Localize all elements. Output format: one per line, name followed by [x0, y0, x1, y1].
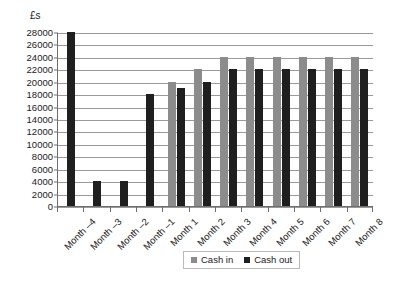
- x-tick-mark: [320, 207, 321, 212]
- x-label-cell: Month –3: [83, 214, 109, 262]
- bar-chart: £s 2800026000240002200020000180001600014…: [0, 0, 399, 292]
- bar-series-layer: [58, 33, 373, 206]
- bar-cash-out: [146, 94, 154, 206]
- x-axis-category-label: Month 8: [353, 216, 385, 248]
- y-tick-label: 12000: [27, 127, 53, 137]
- legend-swatch-icon: [244, 257, 250, 263]
- legend-item[interactable]: Cash in: [191, 254, 233, 266]
- x-tick-mark: [372, 207, 373, 212]
- x-tick-mark: [268, 207, 269, 212]
- x-tick-mark: [136, 207, 137, 212]
- x-tick-mark: [189, 207, 190, 212]
- bar-group: [268, 33, 294, 206]
- bar-group: [189, 33, 215, 206]
- bar-cash-out: [203, 82, 211, 206]
- y-tick-label: 10000: [27, 140, 53, 150]
- y-tick-label: 18000: [27, 90, 53, 100]
- bar-cash-in: [246, 57, 254, 206]
- bar-cash-out: [229, 69, 237, 206]
- y-tick-label: 2000: [32, 190, 53, 200]
- y-tick-label: 28000: [27, 28, 53, 38]
- x-tick-mark: [241, 207, 242, 212]
- bar-cash-out: [360, 69, 368, 206]
- bar-group: [294, 33, 320, 206]
- bar-cash-in: [220, 57, 228, 206]
- bar-group: [84, 33, 110, 206]
- bar-cash-in: [168, 82, 176, 206]
- x-tick-mark: [294, 207, 295, 212]
- x-tick-mark: [57, 207, 58, 212]
- x-tick-mark: [83, 207, 84, 212]
- y-axis-unit-label: £s: [30, 10, 41, 21]
- x-tick-mark: [110, 207, 111, 212]
- x-tick-mark: [347, 207, 348, 212]
- bar-group: [242, 33, 268, 206]
- bar-cash-in: [273, 57, 281, 206]
- legend-label: Cash in: [201, 254, 233, 266]
- y-tick-label: 22000: [27, 65, 53, 75]
- bar-group: [321, 33, 347, 206]
- y-tick-label: 0: [48, 202, 53, 212]
- y-tick-label: 4000: [32, 177, 53, 187]
- bar-group: [137, 33, 163, 206]
- bar-group: [111, 33, 137, 206]
- bar-group: [216, 33, 242, 206]
- bar-cash-out: [282, 69, 290, 206]
- y-tick-label: 8000: [32, 152, 53, 162]
- x-label-cell: Month 7: [320, 214, 346, 262]
- bar-cash-in: [325, 57, 333, 206]
- bar-cash-in: [351, 57, 359, 206]
- y-tick-label: 26000: [27, 40, 53, 50]
- y-tick-label: 24000: [27, 53, 53, 63]
- bar-group: [163, 33, 189, 206]
- x-label-cell: Month 8: [347, 214, 373, 262]
- bar-cash-out: [255, 69, 263, 206]
- bar-cash-in: [194, 69, 202, 206]
- y-tick-label: 6000: [32, 165, 53, 175]
- legend-label: Cash out: [254, 254, 292, 266]
- y-tick-label: 14000: [27, 115, 53, 125]
- legend-item[interactable]: Cash out: [244, 254, 292, 266]
- y-tick-label: 16000: [27, 103, 53, 113]
- bar-group: [347, 33, 373, 206]
- bar-cash-in: [299, 57, 307, 206]
- x-label-cell: Month –4: [57, 214, 83, 262]
- bar-cash-out: [93, 181, 101, 206]
- x-label-cell: Month –1: [136, 214, 162, 262]
- bar-cash-out: [334, 69, 342, 206]
- bar-cash-out: [120, 181, 128, 206]
- x-label-cell: Month –2: [110, 214, 136, 262]
- plot-area: 2800026000240002200020000180001600014000…: [57, 33, 373, 207]
- chart-legend: Cash inCash out: [183, 251, 300, 269]
- legend-swatch-icon: [191, 257, 197, 263]
- bar-cash-out: [177, 88, 185, 206]
- bar-cash-out: [308, 69, 316, 206]
- x-tick-mark: [215, 207, 216, 212]
- bar-cash-out: [67, 32, 75, 206]
- bar-group: [58, 33, 84, 206]
- x-tick-mark: [162, 207, 163, 212]
- y-tick-label: 20000: [27, 78, 53, 88]
